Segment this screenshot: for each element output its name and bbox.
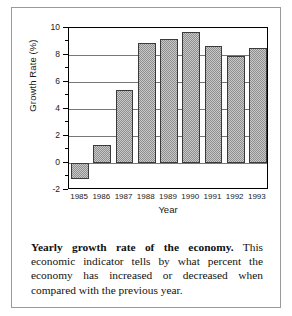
y-tick-label: 4 xyxy=(38,103,60,113)
bar xyxy=(160,39,178,163)
bar xyxy=(138,43,156,163)
y-tick-label: 2 xyxy=(38,130,60,140)
bar-chart: Growth Rate (%) 1086420-2 19851986198719… xyxy=(12,8,280,223)
bar xyxy=(116,90,134,163)
figure-caption: Yearly growth rate of the economy. This … xyxy=(31,240,263,297)
plot-area xyxy=(68,27,268,189)
bar xyxy=(71,163,89,179)
caption-title: Yearly growth rate of the economy. xyxy=(31,241,234,253)
figure-card: Growth Rate (%) 1086420-2 19851986198719… xyxy=(11,7,281,308)
y-tick-label: 6 xyxy=(38,76,60,86)
y-tick-label: 10 xyxy=(38,22,60,32)
bar xyxy=(182,32,200,163)
bar xyxy=(93,145,111,163)
bar xyxy=(227,56,245,163)
bar xyxy=(249,48,267,163)
bar xyxy=(205,46,223,163)
y-tick-label: 8 xyxy=(38,49,60,59)
x-tick-label: 1993 xyxy=(242,192,272,201)
x-axis-label: Year xyxy=(68,204,268,215)
y-tick-label: 0 xyxy=(38,157,60,167)
y-tick-label: -2 xyxy=(38,184,60,194)
y-axis-label: Growth Rate (%) xyxy=(27,21,38,131)
